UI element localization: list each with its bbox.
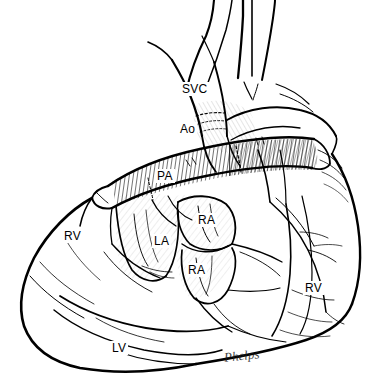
label-pa: PA	[155, 169, 175, 183]
label-ao: Ao	[178, 122, 197, 136]
cardiac-illustration-figure: SVC Ao PA RA LA RA RV RV LV Phelps	[0, 0, 389, 382]
heart-line-drawing	[0, 0, 389, 382]
label-svc: SVC	[180, 82, 210, 96]
label-la: LA	[152, 234, 171, 248]
label-rv-right: RV	[303, 281, 324, 295]
label-ra-lower: RA	[186, 263, 207, 277]
label-ra-upper: RA	[196, 213, 217, 227]
label-lv: LV	[110, 341, 128, 355]
label-rv-left: RV	[62, 229, 83, 243]
